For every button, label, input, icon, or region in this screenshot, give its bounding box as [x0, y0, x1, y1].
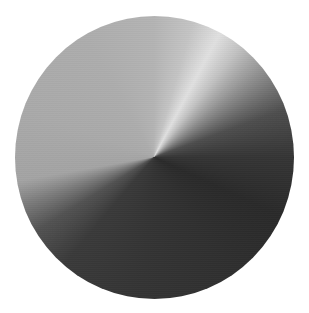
- canvas: Brushed metal conical gradient disc: [0, 0, 309, 313]
- image-label: Brushed metal conical gradient disc: [0, 0, 1, 1]
- metal-cone-disc: [15, 16, 294, 299]
- conic-gradient-fill: [15, 16, 294, 299]
